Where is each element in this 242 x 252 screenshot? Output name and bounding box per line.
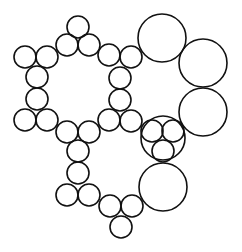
small-circle (78, 184, 100, 206)
small-circle (152, 140, 174, 162)
small-circle (26, 88, 48, 110)
small-circle (120, 46, 142, 68)
large-circle (179, 88, 227, 136)
large-circle (179, 39, 227, 87)
small-circle (78, 34, 100, 56)
circle-packing-diagram (0, 0, 242, 252)
small-circle (36, 109, 58, 131)
small-circle (121, 195, 143, 217)
small-circle (120, 110, 142, 132)
small-circle (67, 140, 89, 162)
small-circle (98, 44, 120, 66)
small-circle (141, 120, 163, 142)
small-circle (56, 34, 78, 56)
small-circle (98, 109, 120, 131)
small-circle (162, 120, 184, 142)
small-circle (110, 216, 132, 238)
large-circle (141, 116, 185, 160)
small-circle (99, 195, 121, 217)
small-circle (14, 46, 36, 68)
small-circle (26, 66, 48, 88)
small-circle (36, 46, 58, 68)
small-circle (56, 184, 78, 206)
large-circle (138, 14, 186, 62)
small-circle (109, 67, 131, 89)
small-circle (14, 109, 36, 131)
large-circle (139, 163, 187, 211)
small-circle (67, 162, 89, 184)
small-circle (109, 89, 131, 111)
